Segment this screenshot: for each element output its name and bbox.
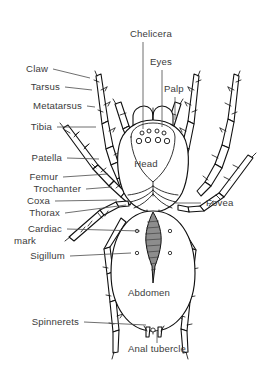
label-eyes: Eyes (150, 56, 172, 67)
label-claw: Claw (26, 63, 48, 74)
spider-illustration: Claw Tarsus Metatarsus Tibia Patella Fem… (0, 0, 274, 373)
eye-posterior-lateral-right (164, 138, 169, 143)
label-abdomen: Abdomen (128, 287, 170, 298)
eye-posterior-lateral-left (136, 138, 141, 143)
leader-patella (67, 158, 99, 159)
leader-metatarsus (87, 106, 95, 107)
leader-claw (53, 69, 90, 78)
label-femur: Femur (30, 171, 59, 182)
eye-anterior-median-left (147, 129, 151, 133)
label-sigillum: Sigillum (30, 250, 65, 261)
sigillum-lower-left (135, 251, 138, 254)
label-spinnerets: Spinnerets (32, 316, 79, 327)
label-chelicera: Chelicera (130, 28, 172, 39)
leader-trochanter (86, 187, 112, 189)
label-head: Head (134, 158, 158, 169)
label-fovea: Fovea (206, 197, 234, 208)
spinneret-left (146, 327, 150, 337)
label-cardiac: Cardiac (28, 223, 62, 234)
label-palp: Palp (164, 83, 184, 94)
leader-thorax (65, 205, 126, 213)
anal-tubercle-knob (151, 328, 155, 332)
label-tarsus: Tarsus (31, 81, 60, 92)
eye-anterior-lateral-left (140, 131, 144, 135)
sigillum-lower-right (168, 251, 171, 254)
label-patella: Patella (32, 152, 63, 163)
label-tibia: Tibia (31, 121, 53, 132)
label-thorax: Thorax (29, 207, 60, 218)
spinneret-right (158, 327, 162, 337)
spider-anatomy-diagram: Claw Tarsus Metatarsus Tibia Patella Fem… (0, 0, 274, 373)
label-metatarsus: Metatarsus (33, 100, 82, 111)
label-cardiac-mark-line2: mark (14, 235, 36, 246)
leader-coxa (55, 200, 117, 201)
label-anal-tubercle: Anal tubercle (128, 343, 186, 354)
eye-anterior-median-right (155, 129, 159, 133)
eye-anterior-lateral-right (162, 131, 166, 135)
label-coxa: Coxa (27, 195, 51, 206)
label-trochanter: Trochanter (33, 183, 81, 194)
leader-tarsus (65, 87, 92, 90)
eye-posterior-median-right (155, 137, 160, 142)
eye-posterior-median-left (145, 137, 150, 142)
sigillum-upper-right (168, 229, 171, 232)
